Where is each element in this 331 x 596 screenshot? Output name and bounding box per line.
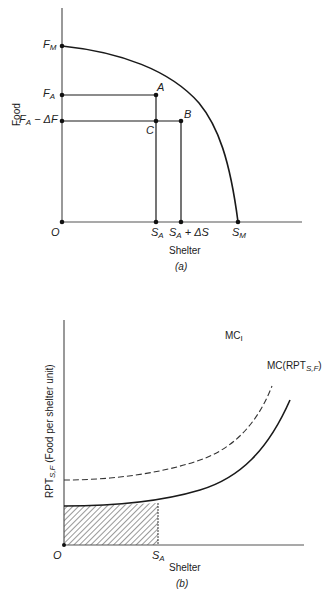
y-tick-fm: FM (43, 38, 56, 52)
origin-dot (60, 220, 65, 225)
y-axis-title: RPTS,F (Food per shelter unit) (44, 364, 57, 498)
y-tick-fa-minus-df: FA − ΔF (19, 113, 58, 127)
x-axis-title: Shelter (169, 562, 201, 573)
point-c-label: C (146, 124, 154, 136)
sa-dot (154, 220, 159, 225)
x-tick-sm: SM (232, 226, 246, 240)
y-tick-fa: FA (43, 87, 55, 101)
point-a-dot (154, 93, 159, 98)
point-c-dot (154, 119, 159, 124)
fa-df-dot (60, 119, 65, 124)
fa-dot (60, 93, 65, 98)
mc-i-label: MCI (225, 330, 243, 343)
point-a-label: A (157, 81, 164, 93)
panel-a-production-frontier: FM FA FA − ΔF A B C O SA SA + ΔS SM Shel… (0, 0, 331, 290)
origin-label: O (53, 549, 62, 561)
x-tick-sa-plus-ds: SA + ΔS (169, 226, 209, 240)
x-tick-sa: SA (152, 549, 165, 563)
sa-ds-dot (179, 220, 184, 225)
caption-b: (b) (176, 578, 188, 589)
sm-dot (236, 220, 241, 225)
panel-b-marginal-cost: MCI MC(RPTS,F) O SA Shelter RPTS,F (Food… (0, 290, 331, 596)
origin-dot (62, 543, 66, 547)
origin-label: O (51, 226, 60, 238)
caption-a: (a) (175, 261, 187, 272)
mc-rpt-label: MC(RPTS,F) (267, 360, 322, 373)
point-b-dot (179, 119, 184, 124)
shaded-area (64, 503, 158, 545)
fm-dot (60, 44, 65, 49)
y-axis-title: Food (11, 103, 22, 126)
mc-i-curve (64, 386, 272, 480)
x-tick-sa: SA (151, 226, 164, 240)
point-b-label: B (184, 108, 191, 120)
x-axis-title: Shelter (169, 245, 201, 256)
